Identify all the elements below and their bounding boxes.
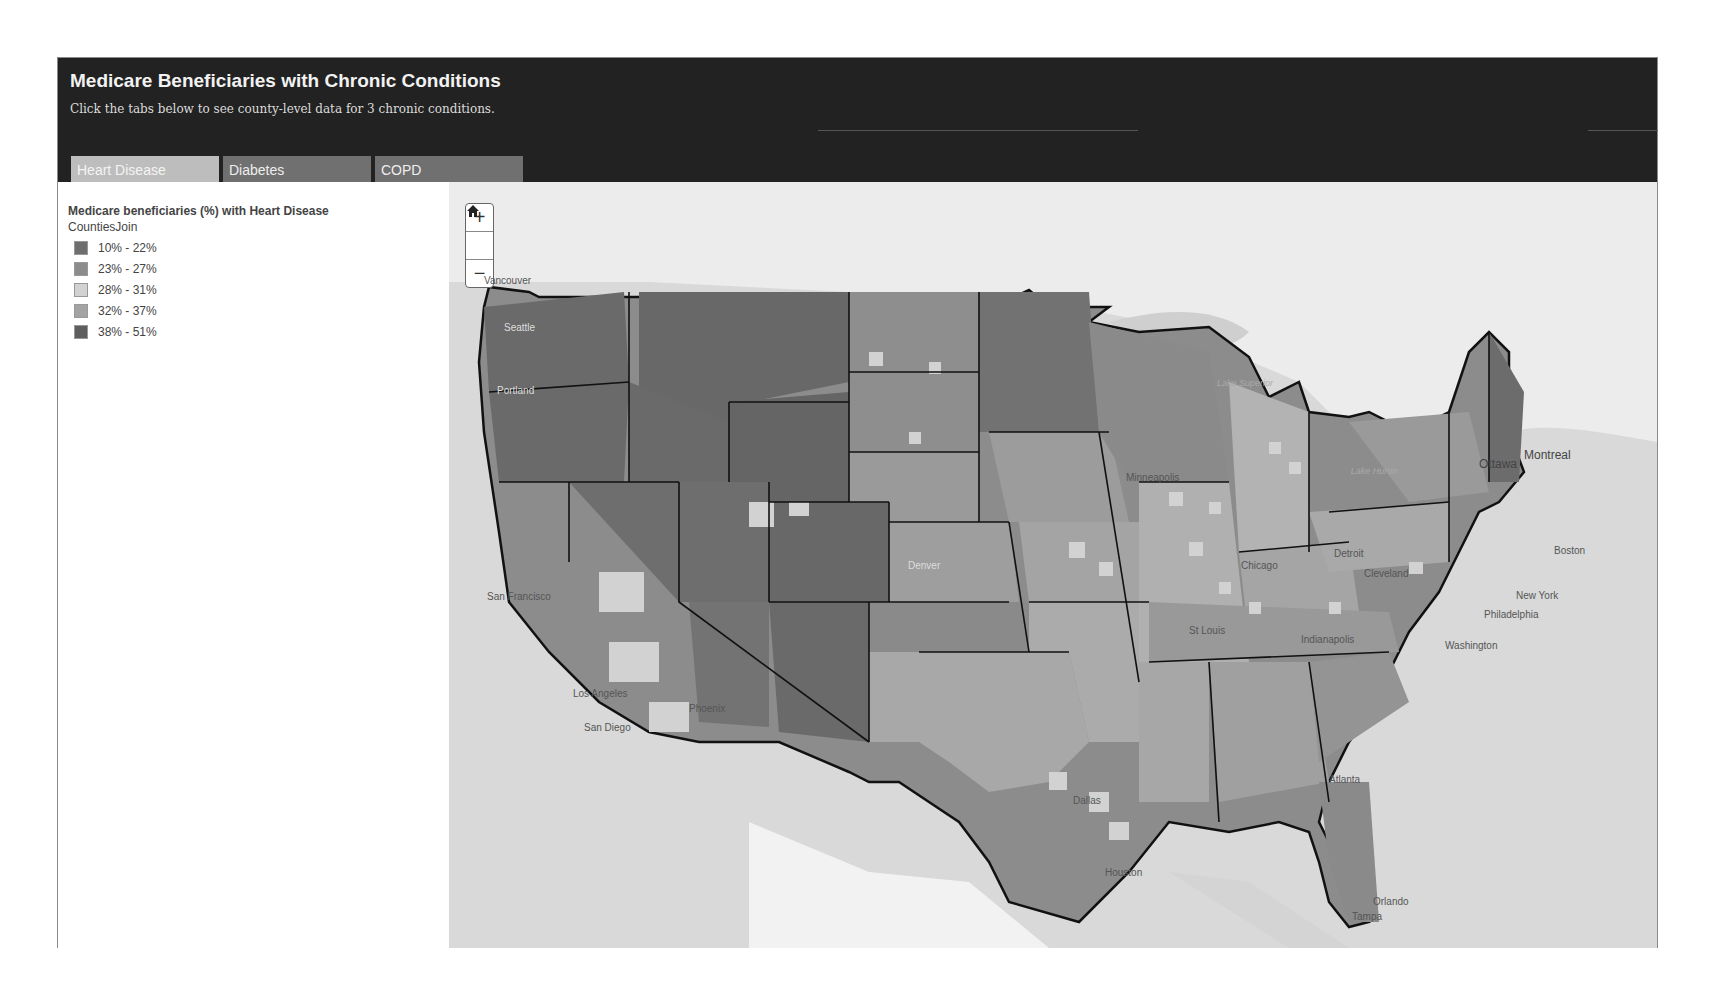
city-label: Tampa xyxy=(1352,911,1382,922)
city-label: Cleveland xyxy=(1364,568,1408,579)
water-label: Lake Huron xyxy=(1349,465,1399,477)
divider xyxy=(818,130,1138,131)
legend-label: 28% - 31% xyxy=(98,283,157,297)
tab-heart-disease[interactable]: Heart Disease xyxy=(71,156,219,185)
water-label: Lake Superior xyxy=(1215,377,1275,389)
page-title: Medicare Beneficiaries with Chronic Cond… xyxy=(70,70,501,92)
legend-label: 23% - 27% xyxy=(98,262,157,276)
city-label: San Diego xyxy=(584,722,631,733)
legend-item: 38% - 51% xyxy=(74,321,157,342)
legend-item: 32% - 37% xyxy=(74,300,157,321)
city-label: Houston xyxy=(1105,867,1142,878)
map-view[interactable]: + − Vancouver Seattle Portland San Franc… xyxy=(449,182,1657,948)
legend-item: 23% - 27% xyxy=(74,258,157,279)
city-label: New York xyxy=(1516,590,1558,601)
legend-swatch xyxy=(74,262,88,276)
city-label: Vancouver xyxy=(484,275,531,286)
city-label: Indianapolis xyxy=(1301,634,1354,645)
legend-swatch xyxy=(74,241,88,255)
home-icon xyxy=(466,204,480,218)
city-label: Los Angeles xyxy=(573,688,628,699)
legend-label: 38% - 51% xyxy=(98,325,157,339)
legend-swatch xyxy=(74,304,88,318)
city-label: Dallas xyxy=(1073,795,1101,806)
city-label: St Louis xyxy=(1189,625,1225,636)
legend-swatch xyxy=(74,325,88,339)
city-label: Philadelphia xyxy=(1484,609,1539,620)
city-label: Detroit xyxy=(1334,548,1363,559)
city-label: Boston xyxy=(1554,545,1585,556)
legend-item: 28% - 31% xyxy=(74,279,157,300)
city-label: Ottawa xyxy=(1479,457,1517,471)
legend-swatch xyxy=(74,283,88,297)
choropleth-map[interactable] xyxy=(449,182,1657,948)
city-label: Washington xyxy=(1445,640,1497,651)
legend-item: 10% - 22% xyxy=(74,237,157,258)
city-label: Montreal xyxy=(1524,448,1571,462)
city-label: Chicago xyxy=(1241,560,1278,571)
legend-label: 32% - 37% xyxy=(98,304,157,318)
city-label: Phoenix xyxy=(689,703,725,714)
city-label: Minneapolis xyxy=(1126,472,1179,483)
legend-items: 10% - 22% 23% - 27% 28% - 31% 32% - 37% … xyxy=(74,237,157,342)
tab-diabetes[interactable]: Diabetes xyxy=(223,156,371,185)
city-label: Atlanta xyxy=(1329,774,1360,785)
city-label: Orlando xyxy=(1373,896,1409,907)
legend-layer-name: CountiesJoin xyxy=(68,220,137,234)
legend-label: 10% - 22% xyxy=(98,241,157,255)
city-label: San Francisco xyxy=(487,591,551,602)
home-button[interactable] xyxy=(466,232,493,260)
city-label: Portland xyxy=(497,385,534,396)
header: Medicare Beneficiaries with Chronic Cond… xyxy=(58,58,1657,182)
city-label: Seattle xyxy=(504,322,535,333)
divider xyxy=(1588,130,1658,131)
page-subtitle: Click the tabs below to see county-level… xyxy=(70,102,495,116)
app-frame: Medicare Beneficiaries with Chronic Cond… xyxy=(57,57,1658,948)
city-label: Denver xyxy=(908,560,940,571)
tab-copd[interactable]: COPD xyxy=(375,156,523,185)
legend-title: Medicare beneficiaries (%) with Heart Di… xyxy=(68,204,329,218)
legend-panel: Medicare beneficiaries (%) with Heart Di… xyxy=(58,182,449,948)
